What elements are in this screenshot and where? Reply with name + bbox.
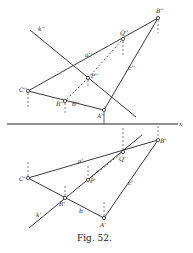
dash-PR-upper bbox=[65, 78, 88, 101]
figure-caption: Fig. 52. bbox=[77, 233, 112, 243]
upper-labels: k'' a'' c'' b'' A'' B'' C'' P'' Q'' R'' bbox=[19, 7, 164, 119]
label-c-lower: c' bbox=[128, 179, 133, 186]
label-c-upper: c'' bbox=[128, 64, 135, 71]
label-P-upper: P'' bbox=[90, 72, 99, 79]
label-C-upper: C'' bbox=[19, 86, 27, 93]
label-B-upper: B'' bbox=[155, 7, 164, 14]
point-Q-lower bbox=[121, 150, 124, 153]
label-Q-upper: Q'' bbox=[120, 29, 129, 36]
label-k-lower: k' bbox=[36, 211, 42, 218]
dash-PQ-lower bbox=[88, 152, 123, 180]
label-a-lower: a' bbox=[78, 157, 84, 164]
label-B-lower: B' bbox=[159, 137, 166, 144]
line-k-lower bbox=[29, 135, 142, 228]
label-C-lower: C' bbox=[19, 175, 26, 182]
label-Q-lower: Q' bbox=[119, 155, 126, 162]
upper-view bbox=[26, 16, 159, 124]
lower-labels: k' a' c' b A' B' C' P' Q' R' bbox=[19, 137, 166, 228]
label-a-upper: a'' bbox=[85, 51, 92, 58]
edge-a-lower bbox=[28, 140, 158, 178]
label-b-lower: b bbox=[79, 207, 83, 214]
point-B-upper bbox=[156, 16, 159, 19]
line-k-upper bbox=[30, 30, 136, 117]
figure-diagram: x k'' a'' c'' b'' A'' B'' C'' P'' Q' bbox=[0, 0, 193, 253]
label-k-upper: k'' bbox=[38, 25, 45, 32]
edge-a-upper bbox=[28, 18, 158, 91]
point-R-upper bbox=[63, 99, 66, 102]
label-A-lower: A' bbox=[99, 221, 106, 228]
label-R-lower: R' bbox=[58, 200, 66, 207]
point-Q-upper bbox=[121, 37, 124, 40]
label-A-upper: A'' bbox=[96, 112, 105, 119]
label-P-lower: P' bbox=[89, 177, 96, 184]
point-P-upper bbox=[86, 76, 89, 79]
point-C-lower bbox=[26, 176, 29, 179]
label-R-upper: R'' bbox=[55, 100, 64, 107]
label-b-upper: b'' bbox=[72, 100, 79, 107]
axis-label: x bbox=[179, 120, 183, 127]
point-A-lower bbox=[102, 216, 105, 219]
